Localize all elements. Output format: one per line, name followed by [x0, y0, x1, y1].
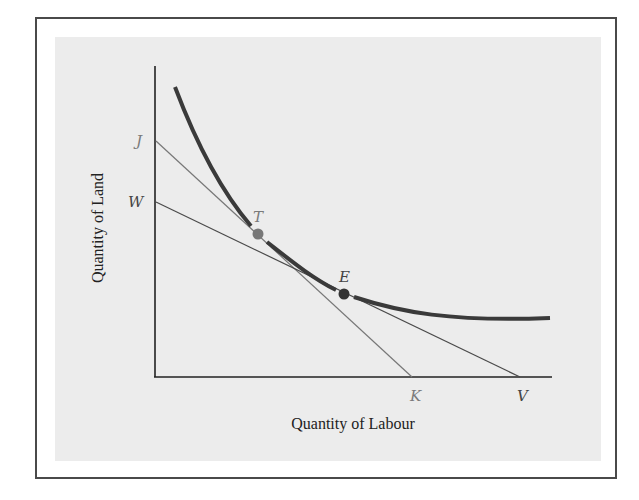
isocost-line-jk: [156, 141, 412, 377]
isoquant-diagram: J W T E K V Quantity of Labour Quantity …: [0, 0, 639, 500]
isoquant-curve-segment-2: [267, 242, 336, 290]
isoquant-curve-segment-1: [175, 87, 251, 226]
y-axis-title: Quantity of Land: [89, 173, 107, 283]
label-k: K: [409, 387, 422, 405]
isoquant-curve-segment-3: [354, 297, 550, 319]
label-e: E: [338, 268, 350, 286]
label-w: W: [128, 193, 145, 211]
point-e: [339, 289, 350, 300]
x-axis-title: Quantity of Labour: [291, 415, 415, 433]
label-v: V: [517, 387, 530, 405]
label-t: T: [253, 208, 264, 226]
label-j: J: [133, 132, 143, 150]
point-t: [253, 229, 264, 240]
isocost-line-wv: [156, 202, 520, 377]
